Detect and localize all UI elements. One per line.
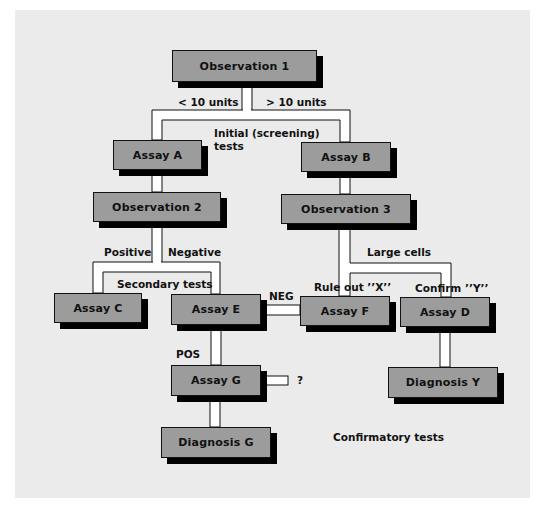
group-label-confirmatory-tests: Confirmatory tests xyxy=(333,431,444,443)
edge-label-positive: Positive xyxy=(104,246,151,258)
node-label: Assay E xyxy=(192,303,241,316)
group-label-initial-line2: tests xyxy=(214,140,244,152)
node-label: Observation 2 xyxy=(112,201,202,214)
group-label-initial-line1: Initial (screening) xyxy=(214,127,320,139)
edge-label-large-cells: Large cells xyxy=(367,246,431,258)
node-diagnosis-y: Diagnosis Y xyxy=(388,367,498,398)
group-label-secondary-tests: Secondary tests xyxy=(117,278,213,290)
node-assay-b: Assay B xyxy=(301,142,391,172)
node-assay-a: Assay A xyxy=(113,140,202,170)
edge-label-lt-10-units: < 10 units xyxy=(178,96,239,108)
edge-label-question: ? xyxy=(297,374,303,386)
node-label: Observation 1 xyxy=(200,60,290,73)
node-diagnosis-g: Diagnosis G xyxy=(161,427,271,458)
node-label: Diagnosis G xyxy=(178,436,254,449)
node-assay-e: Assay E xyxy=(171,294,261,325)
node-label: Assay G xyxy=(191,374,241,387)
node-label: Diagnosis Y xyxy=(406,376,480,389)
edge-label-gt-10-units: > 10 units xyxy=(266,96,327,108)
node-assay-f: Assay F xyxy=(300,296,390,326)
node-label: Assay F xyxy=(321,305,370,318)
node-assay-g: Assay G xyxy=(171,365,261,396)
node-observation-2: Observation 2 xyxy=(93,192,221,222)
node-label: Assay B xyxy=(321,151,370,164)
node-label: Assay C xyxy=(73,302,122,315)
node-label: Observation 3 xyxy=(301,203,391,216)
node-assay-d: Assay D xyxy=(400,297,490,327)
edge-label-rule-out-x: Rule out ’’X’’ xyxy=(314,281,391,293)
node-label: Assay D xyxy=(420,306,470,319)
node-observation-3: Observation 3 xyxy=(281,194,411,224)
edge-label-confirm-y: Confirm ’’Y’’ xyxy=(415,282,489,294)
edge-label-neg: NEG xyxy=(269,290,294,302)
edge-label-negative: Negative xyxy=(168,246,221,258)
node-label: Assay A xyxy=(133,149,183,162)
edge-label-pos: POS xyxy=(176,348,200,360)
node-observation-1: Observation 1 xyxy=(172,50,317,82)
node-assay-c: Assay C xyxy=(54,293,142,323)
